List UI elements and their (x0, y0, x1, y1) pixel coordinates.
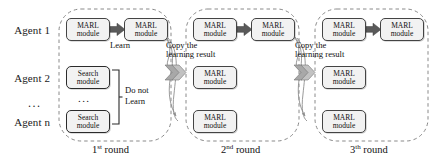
agent-label-1: Agent 1 (2, 24, 50, 36)
module-subtitle: module (77, 78, 100, 86)
copy-learning-result-label-round-3: Copy the learning result (295, 41, 353, 60)
learn-arrow-round-2 (236, 23, 252, 35)
round-3-agent-1-marl-module-before[interactable]: MARL module (322, 18, 366, 41)
module-subtitle: module (204, 122, 227, 130)
copy-learning-result-label-round-2: Copy the learning result (166, 41, 224, 60)
module-subtitle: module (135, 30, 158, 38)
learn-arrow-round-3 (365, 23, 381, 35)
round-2-caption: 2nd round (221, 144, 260, 155)
round-2-word: round (236, 144, 261, 155)
agent-label-n: Agent n (2, 116, 50, 128)
round-3-caption: 3th round (350, 144, 388, 155)
copy-chevron-round-2-to-3 (294, 65, 315, 80)
module-subtitle: module (77, 122, 100, 130)
round-3-agent-2-marl-module[interactable]: MARL module (322, 66, 366, 89)
round-2-suffix: nd (226, 143, 233, 151)
round-1-caption: 1st round (92, 144, 129, 155)
do-not-learn-label-line2: Learn (125, 97, 145, 106)
round-3-agent-n-marl-module[interactable]: MARL module (322, 110, 366, 133)
round-3-suffix: th (355, 143, 360, 151)
learn-arrow-round-1 (109, 23, 125, 35)
copy-chevron-round-1-to-2 (165, 65, 186, 80)
do-not-learn-bracket (112, 70, 123, 124)
round-1-agent-1-marl-module-after[interactable]: MARL module (124, 18, 168, 41)
round-2-agent-1-marl-module-after[interactable]: MARL module (251, 18, 295, 41)
round-3-word: round (363, 144, 388, 155)
module-subtitle: module (333, 122, 356, 130)
round-3-agent-1-marl-module-after[interactable]: MARL module (380, 18, 424, 41)
agent-label-2: Agent 2 (2, 72, 50, 84)
round-2-agent-1-marl-module-before[interactable]: MARL module (193, 18, 237, 41)
round-1-word: round (105, 144, 130, 155)
round-1-agent-n-search-module[interactable]: Search module (66, 110, 110, 133)
module-subtitle: module (391, 30, 414, 38)
module-subtitle: module (204, 30, 227, 38)
module-subtitle: module (204, 78, 227, 86)
figure-canvas: Agent 1 Agent 2 ... Agent n MARL module … (0, 0, 433, 162)
agent-rows-ellipsis: ... (28, 96, 42, 111)
round-1-agent-2-search-module[interactable]: Search module (66, 66, 110, 89)
round-2-agent-2-marl-module[interactable]: MARL module (193, 66, 237, 89)
module-subtitle: module (333, 78, 356, 86)
round-2-agent-n-marl-module[interactable]: MARL module (193, 110, 237, 133)
module-subtitle: module (262, 30, 285, 38)
round-1-suffix: st (97, 143, 102, 151)
round-1-modules-ellipsis: ... (78, 92, 90, 104)
module-subtitle: module (77, 30, 100, 38)
do-not-learn-label-line1: Do not (125, 86, 149, 95)
module-subtitle: module (333, 30, 356, 38)
learn-label: Learn (110, 41, 130, 50)
round-1-agent-1-marl-module-before[interactable]: MARL module (66, 18, 110, 41)
